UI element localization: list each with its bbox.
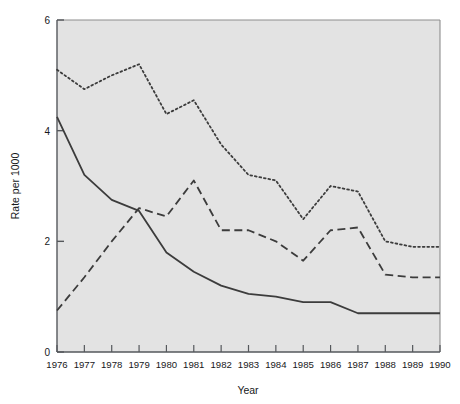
x-axis-title: Year	[237, 384, 259, 396]
x-tick-label: 1989	[402, 359, 423, 370]
x-tick-label: 1984	[265, 359, 287, 370]
x-tick-label: 1979	[128, 359, 149, 370]
y-tick-label: 0	[44, 347, 50, 358]
x-tick-label: 1987	[347, 359, 368, 370]
x-tick-label: 1986	[320, 359, 341, 370]
y-tick-label: 6	[44, 15, 50, 26]
line-chart: 0246 19761977197819791980198119821983198…	[0, 0, 460, 404]
plot-area-background	[57, 20, 440, 352]
x-axis-tick-labels: 1976197719781979198019811982198319841985…	[46, 359, 450, 370]
x-tick-label: 1988	[375, 359, 396, 370]
x-tick-label: 1980	[156, 359, 177, 370]
y-tick-label: 4	[44, 126, 50, 137]
x-tick-label: 1985	[293, 359, 314, 370]
x-tick-label: 1982	[210, 359, 231, 370]
x-tick-label: 1977	[74, 359, 95, 370]
x-tick-label: 1983	[238, 359, 259, 370]
chart-figure: 0246 19761977197819791980198119821983198…	[0, 0, 460, 404]
x-tick-label: 1990	[429, 359, 450, 370]
x-tick-label: 1981	[183, 359, 204, 370]
y-axis-title: Rate per 1000	[9, 153, 21, 220]
y-tick-label: 2	[44, 236, 50, 247]
x-tick-label: 1976	[46, 359, 67, 370]
x-tick-label: 1978	[101, 359, 122, 370]
